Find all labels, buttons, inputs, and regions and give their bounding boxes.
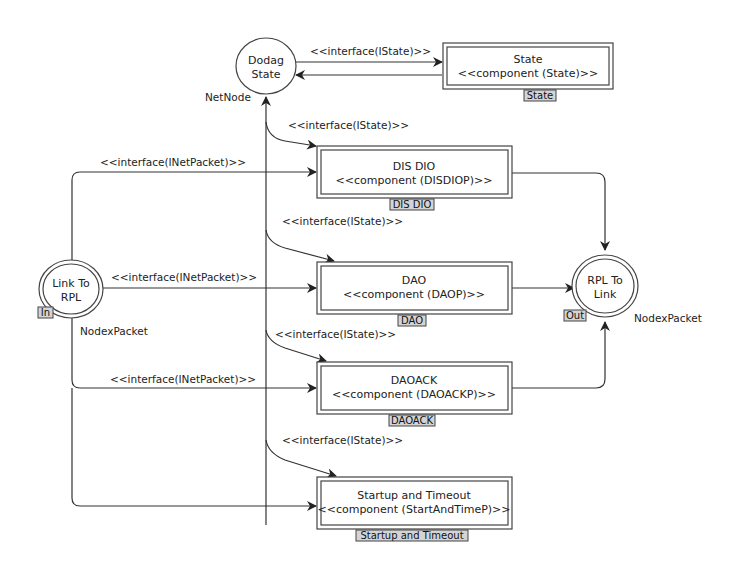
place-link-to-rpl-line2: RPL [61, 291, 82, 304]
edge-dodag-to-dao [266, 230, 334, 261]
transition-state-name: State [513, 53, 542, 66]
transition-dis-dio[interactable]: DIS DIO <<component (DISDIOP)>> [317, 146, 512, 198]
petri-net-diagram: <<interface(IState)>> <<interface(IState… [0, 0, 732, 573]
edge-disdio-to-rpl [512, 173, 605, 250]
svg-text:DIS DIO: DIS DIO [393, 199, 432, 210]
transition-dis-dio-component: <<component (DISDIOP)>> [336, 174, 493, 187]
transition-startup-timeout-name: Startup and Timeout [357, 489, 471, 502]
transition-daoack-name: DAOACK [391, 374, 438, 387]
place-rpl-to-link-line2: Link [594, 288, 617, 301]
port-tag-out: Out [564, 310, 586, 321]
edge-label-link-to-dao: <<interface(INetPacket)>> [111, 271, 257, 283]
port-tag-in: In [38, 307, 53, 318]
edge-daoack-to-rpl [512, 322, 605, 388]
place-dodag-state-line1: Dodag [248, 54, 284, 67]
transition-daoack-component: <<component (DAOACKP)>> [332, 388, 496, 401]
svg-text:DAOACK: DAOACK [391, 415, 434, 426]
transition-daoack-tag: DAOACK [389, 415, 435, 426]
edge-link-trunk-up [72, 172, 316, 262]
place-dodag-state[interactable]: Dodag State [236, 38, 296, 94]
svg-text:DAO: DAO [401, 315, 423, 326]
place-dodag-state-line2: State [251, 68, 280, 81]
edge-label-dodag-to-state: <<interface(IState)>> [310, 45, 431, 57]
edge-label-dodag-to-startup: <<interface(IState)>> [282, 434, 403, 446]
transition-dao[interactable]: DAO <<component (DAOP)>> [317, 262, 512, 314]
place-rpl-to-link-line1: RPL To [587, 274, 623, 287]
transition-dis-dio-name: DIS DIO [393, 160, 436, 173]
svg-text:In: In [41, 307, 50, 318]
place-rpl-to-link-type: NodexPacket [634, 312, 702, 324]
transition-dao-tag: DAO [398, 315, 426, 326]
edge-label-dodag-to-dao: <<interface(IState)>> [282, 215, 403, 227]
svg-text:Startup and Timeout: Startup and Timeout [360, 530, 463, 541]
transition-state[interactable]: State <<component (State)>> [443, 43, 613, 89]
place-rpl-to-link[interactable]: RPL To Link [572, 255, 638, 317]
svg-text:Out: Out [566, 310, 584, 321]
edge-label-dodag-to-disdio: <<interface(IState)>> [288, 119, 409, 131]
svg-text:State: State [527, 90, 553, 101]
transition-startup-timeout-component: <<component (StartAndTimeP)>> [317, 503, 510, 516]
transition-dao-component: <<component (DAOP)>> [343, 288, 485, 301]
transition-startup-timeout[interactable]: Startup and Timeout <<component (StartAn… [317, 477, 512, 529]
edge-label-link-to-disdio: <<interface(INetPacket)>> [100, 156, 246, 168]
transition-dis-dio-tag: DIS DIO [390, 199, 434, 210]
edge-label-link-to-daoack: <<interface(INetPacket)>> [110, 373, 256, 385]
transition-daoack[interactable]: DAOACK <<component (DAOACKP)>> [317, 362, 512, 414]
place-link-to-rpl-line1: Link To [52, 277, 90, 290]
transition-state-component: <<component (State)>> [458, 67, 598, 80]
transition-startup-timeout-tag: Startup and Timeout [356, 530, 468, 541]
place-dodag-state-type: NetNode [205, 91, 251, 103]
transition-dao-name: DAO [402, 274, 427, 287]
transition-state-tag: State [524, 90, 556, 101]
edge-link-to-startup [72, 388, 316, 506]
edge-label-dodag-to-daoack: <<interface(IState)>> [275, 328, 396, 340]
place-link-to-rpl-type: NodexPacket [80, 325, 148, 337]
